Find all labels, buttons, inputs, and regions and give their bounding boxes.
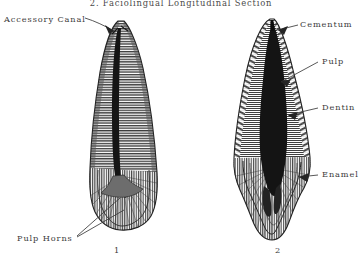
right-tooth-specimen bbox=[228, 14, 320, 245]
label-dentin: Dentin bbox=[322, 103, 355, 111]
label-pulp-horns: Pulp Horns bbox=[17, 234, 73, 242]
left-tooth-specimen bbox=[80, 15, 170, 240]
tooth-illustration-canvas bbox=[0, 0, 362, 259]
figure-number-2: 2 bbox=[275, 245, 280, 255]
label-pulp: Pulp bbox=[322, 57, 344, 65]
figure-number-1: 1 bbox=[114, 245, 119, 255]
dental-figure: 2. Faciolingual Longitudinal Section bbox=[0, 0, 362, 259]
label-accessory-canal: Accessory Canal bbox=[4, 15, 86, 23]
label-cementum: Cementum bbox=[300, 20, 353, 28]
label-enamel: Enamel bbox=[322, 170, 359, 178]
